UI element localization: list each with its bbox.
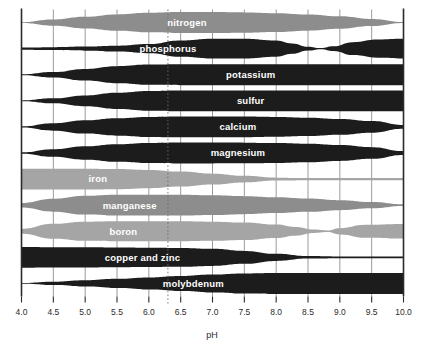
tick-label: 4.0 — [16, 307, 28, 317]
tick-label: 7.5 — [238, 307, 250, 317]
x-axis-title: pH — [206, 330, 218, 340]
band-label-potassium: potassium — [226, 69, 275, 80]
tick-label: 5.5 — [111, 307, 123, 317]
band-label-phosphorus: phosphorus — [139, 43, 196, 54]
tick-label: 4.5 — [47, 307, 59, 317]
tick-label: 8.5 — [302, 307, 314, 317]
band-label-magnesium: magnesium — [211, 147, 266, 158]
band-label-copper-and-zinc: copper and zinc — [105, 252, 180, 263]
band-label-molybdenum: molybdenum — [163, 278, 224, 289]
tick-label: 6.0 — [143, 307, 155, 317]
band-label-iron: iron — [89, 173, 108, 184]
chart-canvas: 4.04.55.05.56.06.57.07.58.08.59.09.510.0… — [0, 0, 424, 345]
band-label-boron: boron — [109, 226, 137, 237]
tick-label: 10.0 — [395, 307, 412, 317]
band-label-calcium: calcium — [220, 121, 257, 132]
tick-label: 7.0 — [207, 307, 219, 317]
band-label-sulfur: sulfur — [237, 95, 265, 106]
band-label-nitrogen: nitrogen — [167, 17, 207, 28]
tick-label: 9.0 — [334, 307, 346, 317]
band-label-manganese: manganese — [103, 200, 157, 211]
tick-label: 8.0 — [270, 307, 282, 317]
tick-label: 5.0 — [79, 307, 91, 317]
nutrient-availability-chart: 4.04.55.05.56.06.57.07.58.08.59.09.510.0… — [0, 0, 424, 345]
tick-label: 9.5 — [366, 307, 378, 317]
tick-label: 6.5 — [175, 307, 187, 317]
